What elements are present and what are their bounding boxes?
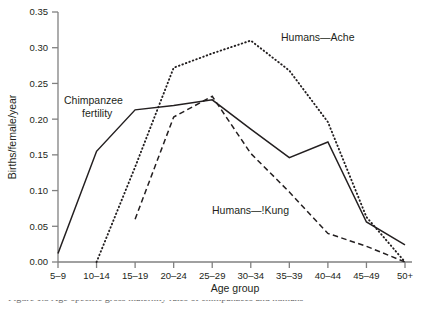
x-tick-label: 15–19 xyxy=(122,270,148,281)
figure-container: 0.000.050.100.150.200.250.300.35 5–910–1… xyxy=(0,0,422,312)
y-tick-label: 0.05 xyxy=(30,221,49,232)
x-axis-ticks xyxy=(58,262,405,268)
y-tick-label: 0.35 xyxy=(30,6,49,17)
x-axis-tick-labels: 5–910–1415–1920–2425–2930–3435–3940–4445… xyxy=(50,270,413,281)
fertility-line-chart: 0.000.050.100.150.200.250.300.35 5–910–1… xyxy=(0,0,422,312)
x-tick-label: 5–9 xyxy=(50,270,66,281)
x-tick-label: 45–49 xyxy=(353,270,379,281)
series-annotations: ChimpanzeefertilityHumans—AcheHumans—!Ku… xyxy=(64,31,355,216)
x-tick-label: 30–34 xyxy=(238,270,264,281)
series-line xyxy=(97,41,405,262)
figure-caption: Figure 1.5 Age-specific gross maternity … xyxy=(8,300,303,303)
y-tick-label: 0.10 xyxy=(30,185,49,196)
series-annotation: Humans—!Kung xyxy=(212,204,289,216)
y-tick-label: 0.30 xyxy=(30,42,49,53)
y-axis-title: Births/female/year xyxy=(6,94,18,179)
y-tick-label: 0.15 xyxy=(30,149,49,160)
y-axis-ticks xyxy=(52,12,58,262)
x-tick-label: 25–29 xyxy=(199,270,225,281)
y-axis-tick-labels: 0.000.050.100.150.200.250.300.35 xyxy=(30,6,49,267)
series-annotation: Humans—Ache xyxy=(281,31,355,43)
x-tick-label: 20–24 xyxy=(160,270,186,281)
x-tick-label: 10–14 xyxy=(83,270,109,281)
y-tick-label: 0.00 xyxy=(30,256,49,267)
figure-caption-strip: Figure 1.5 Age-specific gross maternity … xyxy=(0,300,422,312)
x-tick-label: 35–39 xyxy=(276,270,302,281)
data-series-group xyxy=(58,41,405,262)
x-tick-label: 40–44 xyxy=(315,270,341,281)
series-annotation: Chimpanzee xyxy=(64,94,123,106)
y-tick-label: 0.25 xyxy=(30,78,49,89)
series-annotation: fertility xyxy=(82,107,113,119)
x-axis-title: Age group xyxy=(211,282,260,294)
x-tick-label: 50+ xyxy=(397,270,414,281)
y-tick-label: 0.20 xyxy=(30,114,49,125)
series-line xyxy=(135,96,405,262)
